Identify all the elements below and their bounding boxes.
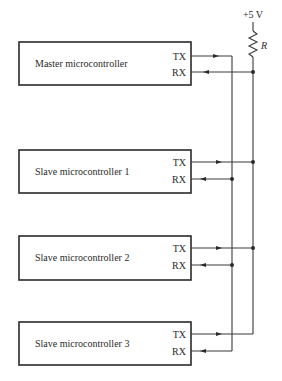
junction-dot [251,70,255,74]
arrow-right-icon [216,246,222,250]
arrow-right-icon [216,332,222,336]
arrow-left-icon [200,263,206,267]
junction-dot [251,246,255,250]
bus-diagram: +5 V R Master microcontroller TX RX Slav… [0,0,282,381]
slave-3-tx-label: TX [173,329,187,340]
slave-3-name: Slave microcontroller 3 [35,338,129,349]
slave-1-name: Slave microcontroller 1 [35,166,129,177]
resistor-label: R [260,40,267,51]
arrow-right-icon [216,160,222,164]
slave-2-name: Slave microcontroller 2 [35,252,129,263]
arrow-right-icon [213,54,219,58]
master-name: Master microcontroller [35,58,128,69]
slave-2-block: Slave microcontroller 2 TX RX [19,236,255,280]
slave-1-rx-label: RX [172,174,187,185]
slave-3-rx-label: RX [172,346,187,357]
slave-3-block: Slave microcontroller 3 TX RX [19,322,253,365]
slave-1-tx-label: TX [173,157,187,168]
arrow-left-icon [200,349,206,353]
slave-1-block: Slave microcontroller 1 TX RX [19,150,255,193]
master-tx-label: TX [173,51,187,62]
arrow-left-icon [203,70,209,74]
master-microcontroller-block: Master microcontroller TX RX [19,42,255,85]
arrow-left-icon [200,177,206,181]
junction-dot [230,177,234,181]
resistor-icon [249,31,257,57]
master-rx-label: RX [172,67,187,78]
supply-label: +5 V [243,9,264,20]
slave-2-tx-label: TX [173,243,187,254]
junction-dot [230,263,234,267]
junction-dot [251,160,255,164]
slave-2-rx-label: RX [172,260,187,271]
